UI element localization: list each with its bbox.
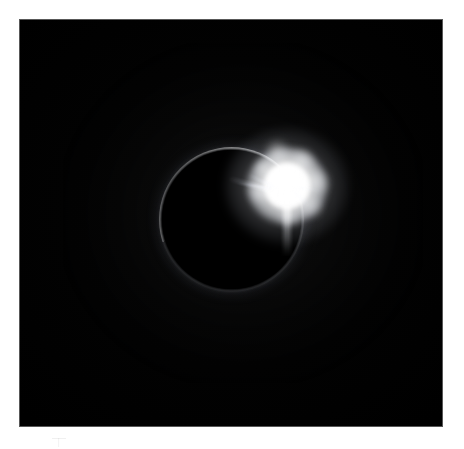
night-sky-background: [20, 20, 442, 426]
image-alt-text: Photograph of a total solar eclipse show…: [0, 0, 1, 1]
eclipse-photograph[interactable]: [20, 20, 442, 426]
photo-page: Total solar eclipse — diamond ring Photo…: [0, 0, 464, 449]
mount-scuff-mark: [52, 438, 66, 447]
image-title: Total solar eclipse — diamond ring: [0, 0, 1, 1]
